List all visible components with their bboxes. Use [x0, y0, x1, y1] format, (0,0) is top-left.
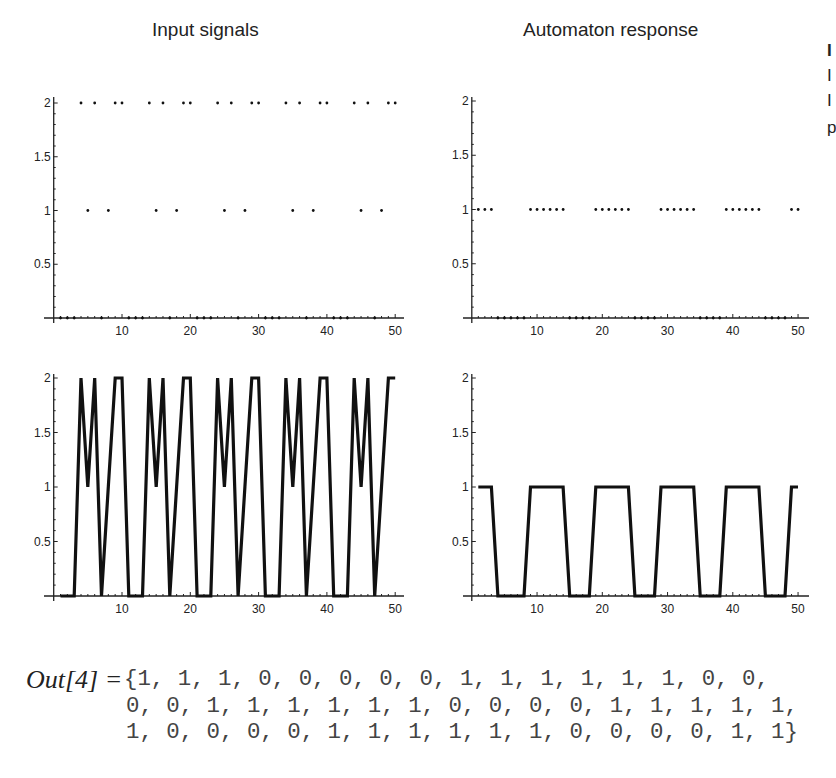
data-point [244, 209, 247, 212]
data-point [731, 208, 734, 211]
data-point [332, 317, 335, 320]
data-point [764, 317, 767, 320]
data-line [478, 487, 798, 596]
data-point [257, 102, 260, 105]
data-point [653, 317, 656, 320]
y-tick-label: 0.5 [34, 535, 51, 549]
data-point [510, 317, 513, 320]
data-point [777, 317, 780, 320]
data-point [673, 208, 676, 211]
data-point [751, 208, 754, 211]
y-tick-label: 1 [44, 480, 51, 494]
data-point [264, 317, 267, 320]
x-tick-label: 40 [726, 324, 740, 338]
y-tick-label: 2 [44, 96, 51, 110]
data-point [366, 102, 369, 105]
y-tick-label: 2 [462, 94, 469, 108]
data-point [196, 317, 199, 320]
data-point [189, 102, 192, 105]
data-point [168, 317, 171, 320]
chart-input-points: 10203040500.511.52 [34, 96, 404, 338]
x-tick-label: 10 [530, 602, 544, 616]
data-point [601, 208, 604, 211]
data-point [216, 102, 219, 105]
data-point [209, 317, 212, 320]
x-tick-label: 20 [184, 324, 198, 338]
data-point [387, 102, 390, 105]
data-point [562, 208, 565, 211]
data-point [223, 209, 226, 212]
data-point [114, 102, 117, 105]
data-point [230, 102, 233, 105]
data-point [100, 317, 103, 320]
data-point [568, 317, 571, 320]
data-point [529, 208, 532, 211]
data-point [312, 209, 315, 212]
data-point [607, 208, 610, 211]
x-tick-label: 50 [389, 602, 403, 616]
data-point [516, 317, 519, 320]
data-point [339, 317, 342, 320]
data-point [250, 102, 253, 105]
y-tick-label: 1.5 [34, 150, 51, 164]
x-tick-label: 30 [252, 602, 266, 616]
data-point [353, 102, 356, 105]
y-tick-label: 0.5 [452, 535, 469, 549]
data-point [278, 317, 281, 320]
x-tick-label: 50 [791, 602, 805, 616]
data-point [790, 208, 793, 211]
data-point [162, 102, 165, 105]
y-tick-label: 1 [462, 480, 469, 494]
y-tick-label: 1 [462, 203, 469, 217]
x-tick-label: 30 [252, 324, 266, 338]
chart-response-points: 10203040500.511.52 [452, 94, 809, 338]
x-tick-label: 10 [530, 324, 544, 338]
data-point [86, 209, 89, 212]
y-tick-label: 0.5 [34, 257, 51, 271]
data-point [483, 208, 486, 211]
data-point [647, 317, 650, 320]
data-point [490, 208, 493, 211]
data-point [121, 102, 124, 105]
data-point [291, 209, 294, 212]
data-point [182, 102, 185, 105]
data-point [127, 317, 130, 320]
data-point [640, 317, 643, 320]
output-line-1: {1, 1, 1, 0, 0, 0, 0, 0, 1, 1, 1, 1, 1, … [124, 666, 769, 692]
data-point [758, 208, 761, 211]
data-point [380, 209, 383, 212]
data-point [107, 209, 110, 212]
data-point [594, 208, 597, 211]
data-point [666, 208, 669, 211]
data-point [497, 317, 500, 320]
y-tick-label: 1.5 [452, 148, 469, 162]
data-point [59, 317, 62, 320]
x-tick-label: 30 [661, 324, 675, 338]
data-point [620, 208, 623, 211]
x-tick-label: 20 [596, 324, 610, 338]
data-point [141, 317, 144, 320]
data-point [326, 102, 329, 105]
data-line [61, 378, 396, 596]
data-point [705, 317, 708, 320]
data-point [523, 317, 526, 320]
x-tick-label: 20 [596, 602, 610, 616]
data-point [373, 317, 376, 320]
data-point [555, 208, 558, 211]
data-point [175, 209, 178, 212]
data-point [237, 317, 240, 320]
x-tick-label: 10 [115, 602, 129, 616]
x-tick-label: 30 [661, 602, 675, 616]
data-point [725, 208, 728, 211]
data-point [66, 317, 69, 320]
data-point [203, 317, 206, 320]
data-point [477, 208, 480, 211]
data-point [686, 208, 689, 211]
data-point [134, 317, 137, 320]
x-tick-label: 40 [320, 602, 334, 616]
data-point [80, 102, 83, 105]
data-point [634, 317, 637, 320]
data-point [588, 317, 591, 320]
x-tick-label: 50 [791, 324, 805, 338]
data-point [346, 317, 349, 320]
